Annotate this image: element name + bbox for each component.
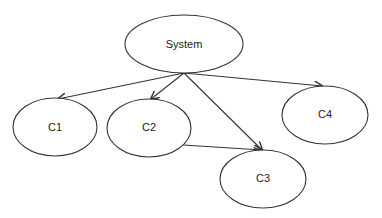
edge-system-to-c4 — [184, 73, 322, 86]
diagram-canvas: System C1 C2 C3 C4 — [0, 0, 382, 218]
node-c4-label: C4 — [318, 108, 332, 120]
edge-system-to-c3 — [184, 73, 262, 150]
node-c3-label: C3 — [256, 172, 270, 184]
node-c2-label: C2 — [142, 121, 156, 133]
node-system-label: System — [166, 38, 203, 50]
node-c3[interactable]: C3 — [220, 150, 306, 208]
node-system[interactable]: System — [125, 15, 243, 73]
edge-system-to-c1 — [58, 73, 184, 99]
node-c4[interactable]: C4 — [282, 86, 368, 144]
node-c1-label: C1 — [48, 121, 62, 133]
node-c2[interactable]: C2 — [107, 99, 191, 157]
node-c1[interactable]: C1 — [13, 98, 97, 156]
edge-c2-to-c3 — [183, 145, 262, 150]
